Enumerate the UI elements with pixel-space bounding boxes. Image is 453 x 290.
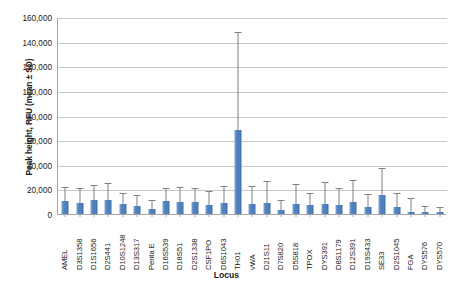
- x-axis-tick-mark: [266, 214, 267, 217]
- x-axis-tick-label: D2S1045: [392, 218, 401, 270]
- error-bar-cap: [206, 191, 213, 192]
- x-axis-tick-mark: [180, 214, 181, 217]
- bar-group: [159, 17, 173, 214]
- error-bar: [252, 187, 253, 204]
- bar-group: [389, 17, 403, 214]
- x-axis-tick-mark: [209, 214, 210, 217]
- bar[interactable]: [350, 202, 357, 214]
- error-bar-cap: [379, 168, 386, 169]
- error-bar-cap: [292, 184, 299, 185]
- x-axis-tick-mark: [367, 214, 368, 217]
- y-axis-tick-label: 140,000: [22, 38, 52, 47]
- bar[interactable]: [235, 130, 242, 214]
- x-axis-title: Locus: [0, 270, 453, 280]
- bar-group: [202, 17, 216, 214]
- error-bar: [281, 201, 282, 210]
- bar[interactable]: [307, 205, 314, 214]
- bar[interactable]: [134, 206, 141, 214]
- x-axis-tick-label: D8S1179: [334, 218, 343, 270]
- error-bar: [180, 188, 181, 202]
- error-bar: [209, 192, 210, 204]
- error-bar-cap: [177, 187, 184, 188]
- x-axis-tick-mark: [65, 214, 66, 217]
- bar[interactable]: [62, 201, 69, 214]
- x-axis-tick-label: D18S51: [175, 218, 184, 270]
- x-axis-tick-mark: [108, 214, 109, 217]
- bar[interactable]: [364, 207, 371, 214]
- bar[interactable]: [91, 200, 98, 214]
- x-axis-tick-mark: [122, 214, 123, 217]
- x-axis-tick-mark: [353, 214, 354, 217]
- error-bar: [223, 187, 224, 203]
- bar[interactable]: [379, 195, 386, 214]
- x-axis-tick-mark: [310, 214, 311, 217]
- bar[interactable]: [249, 204, 256, 214]
- x-axis-tick-label: CSF1PO: [204, 218, 213, 270]
- error-bar-cap: [191, 188, 198, 189]
- error-bar: [353, 181, 354, 203]
- bar[interactable]: [105, 200, 112, 214]
- error-bar-cap: [163, 188, 170, 189]
- x-axis-tick-mark: [410, 214, 411, 217]
- bar-group: [418, 17, 432, 214]
- x-axis-tick-labels: AMELD3S1358D1S1656D2S441D10S1248D13S317P…: [57, 218, 446, 270]
- bar-group: [260, 17, 274, 214]
- bar-group: [231, 17, 245, 214]
- x-axis-tick-label: D7S820: [276, 218, 285, 270]
- bar-group: [274, 17, 288, 214]
- y-axis-tick-label: 60,000: [27, 137, 52, 146]
- x-axis-tick-label: D2S441: [103, 218, 112, 270]
- x-axis-tick-label: AMEL: [60, 218, 69, 270]
- x-axis-tick-mark: [94, 214, 95, 217]
- y-axis-tick-label: 120,000: [22, 63, 52, 72]
- x-axis-tick-mark: [425, 214, 426, 217]
- plot-area: [57, 18, 446, 215]
- x-axis-tick-mark: [338, 214, 339, 217]
- bar-group: [72, 17, 86, 214]
- bar[interactable]: [321, 204, 328, 214]
- error-bar-cap: [422, 206, 429, 207]
- x-axis-tick-label: DYS576: [420, 218, 429, 270]
- bar-group: [332, 17, 346, 214]
- bar-group: [433, 17, 447, 214]
- bar-group: [173, 17, 187, 214]
- x-axis-tick-label: D3S1358: [75, 218, 84, 270]
- error-bar: [166, 189, 167, 202]
- x-axis-tick-mark: [324, 214, 325, 217]
- error-bar: [79, 189, 80, 203]
- x-axis-tick-label: D16S539: [161, 218, 170, 270]
- error-bar-cap: [393, 193, 400, 194]
- error-bar: [266, 182, 267, 204]
- x-axis-tick-label: FGA: [406, 218, 415, 270]
- error-bar-cap: [436, 207, 443, 208]
- x-axis-tick-label: D1S1656: [89, 218, 98, 270]
- error-bar-cap: [307, 193, 314, 194]
- error-bar: [338, 189, 339, 205]
- bar[interactable]: [76, 203, 83, 214]
- bar-group: [361, 17, 375, 214]
- bar[interactable]: [263, 203, 270, 214]
- bar[interactable]: [220, 203, 227, 214]
- x-axis-tick-label: Penta E: [147, 218, 156, 270]
- bar[interactable]: [335, 205, 342, 214]
- bar[interactable]: [393, 207, 400, 214]
- error-bar-cap: [91, 185, 98, 186]
- bar[interactable]: [163, 201, 170, 214]
- error-bar: [137, 196, 138, 206]
- bar-group: [317, 17, 331, 214]
- x-axis-tick-mark: [396, 214, 397, 217]
- bar[interactable]: [177, 202, 184, 214]
- bar-group: [116, 17, 130, 214]
- bar[interactable]: [206, 205, 213, 214]
- y-axis-tick-label: 160,000: [22, 14, 52, 23]
- error-bar-cap: [62, 187, 69, 188]
- bar[interactable]: [292, 204, 299, 214]
- error-bar-cap: [407, 198, 414, 199]
- bar[interactable]: [191, 202, 198, 214]
- bars-layer: [58, 17, 447, 214]
- bar-chart: Peak height, RFU (mean ± SD) 160,000140,…: [0, 0, 453, 290]
- y-axis-tick-label: 80,000: [27, 112, 52, 121]
- bar-group: [289, 17, 303, 214]
- bar-group: [144, 17, 158, 214]
- bar[interactable]: [119, 204, 126, 214]
